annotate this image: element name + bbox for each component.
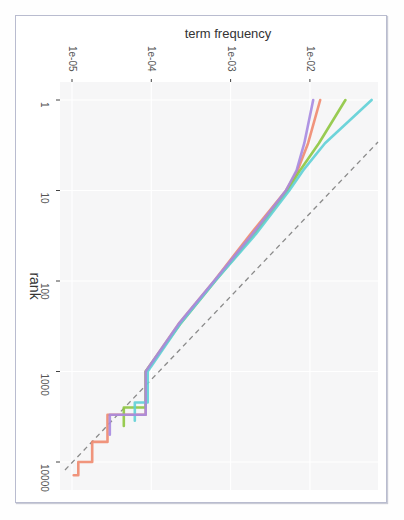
x-tick-label: 1e-02 [305,46,316,72]
y-tick-label: 1 [39,102,50,108]
y-tick-label: 10 [39,193,50,205]
x-tick-label: 1e-05 [67,46,78,72]
x-tick-label: 1e-04 [146,46,157,72]
y-tick-label: 10000 [39,464,50,492]
x-tick-label: 1e-03 [226,46,237,72]
rank-frequency-plot: 1e-051e-041e-031e-02 110100100010000 ter… [0,0,404,520]
x-axis-top: 1e-051e-041e-031e-02 [67,46,316,82]
x-axis-title: term frequency [185,26,272,41]
y-tick-label: 1000 [39,374,50,397]
y-axis-title: rank [27,272,43,300]
